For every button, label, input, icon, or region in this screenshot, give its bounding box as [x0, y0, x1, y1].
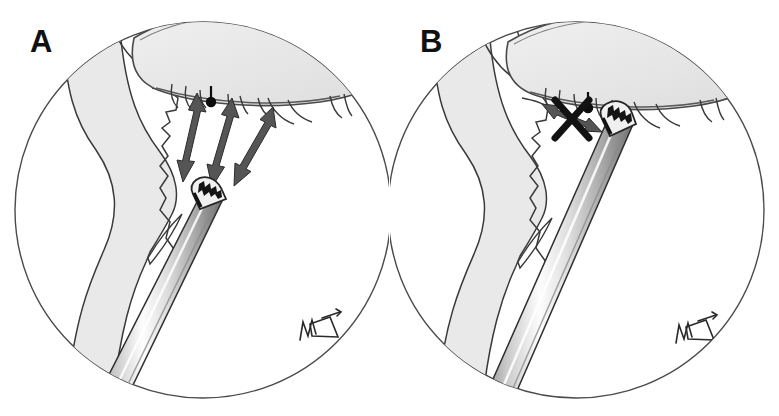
figure-canvas: A: [0, 0, 779, 416]
panel-a: A: [0, 0, 389, 416]
panel-b-label: B: [420, 26, 442, 57]
panel-a-label: A: [30, 26, 52, 57]
panel-b: B: [390, 0, 779, 416]
panel-b-illustration: [390, 0, 779, 416]
panel-a-illustration: [0, 0, 389, 416]
